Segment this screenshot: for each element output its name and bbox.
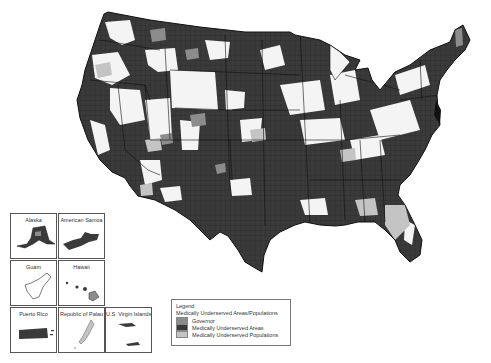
inset-guam: Guam — [10, 260, 57, 306]
hawaii-shape — [59, 261, 106, 307]
virgin-islands-shape — [106, 308, 153, 354]
map-legend: Legend Medically Underserved Areas/Popul… — [171, 299, 291, 346]
legend-heading: Legend — [176, 303, 286, 310]
inset-hawaii: Hawaii — [58, 260, 105, 306]
legend-label: Medically Underserved Areas — [192, 325, 264, 331]
inset-alaska: Alaska — [10, 213, 57, 259]
inset-palau: Republic of Palau — [58, 307, 105, 353]
legend-subheading: Medically Underserved Areas/Populations — [176, 310, 286, 317]
legend-label: Governor — [192, 318, 215, 324]
guam-shape — [11, 261, 58, 307]
inset-american-samoa: American Samoa — [58, 213, 105, 259]
inset-virgin-islands: U.S. Virgin Islands — [105, 307, 152, 353]
american-samoa-shape — [59, 214, 106, 260]
legend-item-mup: Medically Underserved Populations — [176, 332, 286, 339]
inset-puerto-rico: Puerto Rico — [10, 307, 57, 353]
legend-swatch — [176, 324, 188, 331]
puerto-rico-shape — [11, 308, 58, 354]
alaska-shape — [11, 214, 58, 260]
legend-item-mua: Medically Underserved Areas — [176, 325, 286, 332]
legend-label: Medically Underserved Populations — [192, 332, 278, 338]
legend-swatch — [176, 331, 188, 338]
palau-shape — [59, 308, 106, 354]
legend-item-governor: Governor — [176, 318, 286, 325]
legend-swatch — [176, 317, 188, 324]
